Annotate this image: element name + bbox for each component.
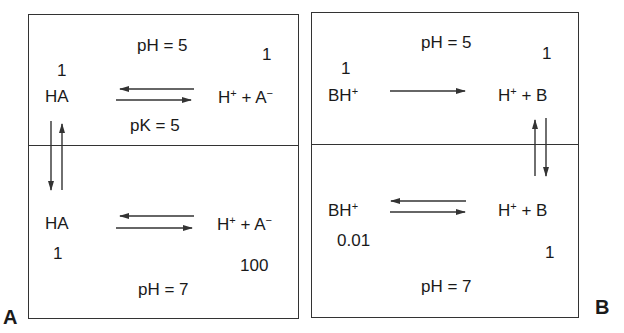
reaction-arrows <box>0 0 624 333</box>
